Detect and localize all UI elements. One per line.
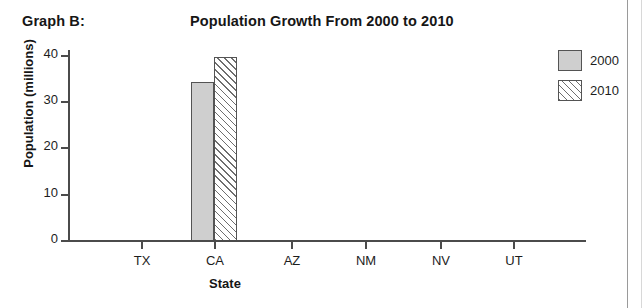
x-axis-title-text: State xyxy=(209,276,241,291)
legend-swatch-2000 xyxy=(558,50,582,71)
bar-ca-2010 xyxy=(214,57,237,241)
x-tick-label-nv: NV xyxy=(411,253,471,268)
x-tick-label-az: AZ xyxy=(262,253,322,268)
chart-page: Graph B: Population Growth From 2000 to … xyxy=(0,0,644,308)
legend-label-2000: 2000 xyxy=(590,53,619,68)
legend-item-2010: 2010 xyxy=(558,77,619,103)
x-tick-nm xyxy=(365,241,367,249)
legend-item-2000: 2000 xyxy=(558,47,619,73)
x-tick-ca xyxy=(214,241,216,249)
x-axis-title: State xyxy=(0,276,644,291)
x-axis-line xyxy=(68,240,586,242)
legend: 2000 2010 xyxy=(558,47,619,107)
y-tick-20 xyxy=(61,147,69,149)
x-tick-tx xyxy=(141,241,143,249)
x-tick-az xyxy=(291,241,293,249)
y-tick-label-10: 10 xyxy=(24,185,58,200)
x-tick-label-ca: CA xyxy=(185,253,245,268)
x-tick-label-nm: NM xyxy=(336,253,396,268)
x-tick-label-ut: UT xyxy=(484,253,544,268)
x-tick-ut xyxy=(513,241,515,249)
y-tick-label-0: 0 xyxy=(24,231,58,246)
legend-swatch-2010 xyxy=(558,80,582,101)
y-tick-40 xyxy=(61,55,69,57)
legend-label-2010: 2010 xyxy=(590,83,619,98)
y-tick-30 xyxy=(61,101,69,103)
x-tick-label-tx: TX xyxy=(112,253,172,268)
y-axis-title: Population (millions) xyxy=(21,24,36,184)
plot-area: 0 10 20 30 40 Population (millions) TX C… xyxy=(0,0,644,308)
y-tick-10 xyxy=(61,194,69,196)
y-axis-line xyxy=(68,50,70,242)
x-tick-nv xyxy=(440,241,442,249)
bar-ca-2000 xyxy=(191,82,214,241)
